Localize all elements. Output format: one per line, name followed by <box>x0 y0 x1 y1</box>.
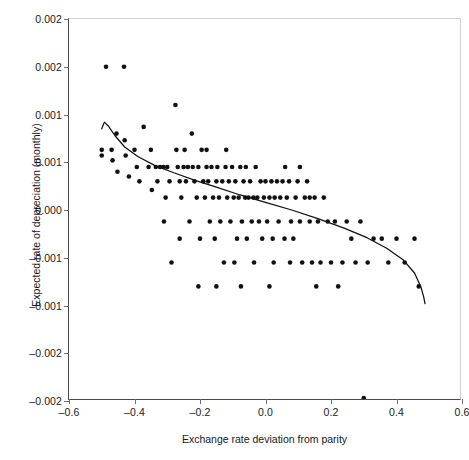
data-point <box>134 165 139 170</box>
data-point <box>223 165 228 170</box>
data-point <box>181 165 186 170</box>
data-point <box>257 219 262 224</box>
data-point <box>184 179 189 184</box>
data-point <box>275 179 280 184</box>
data-point <box>340 260 345 265</box>
data-point <box>194 195 199 200</box>
data-point <box>212 236 217 241</box>
data-point <box>236 195 241 200</box>
data-point <box>220 179 225 184</box>
data-point <box>146 165 151 170</box>
data-point <box>99 153 104 158</box>
data-point <box>258 179 263 184</box>
data-point <box>379 236 384 241</box>
y-tick-label: 0.002 <box>35 61 69 73</box>
data-point <box>231 195 236 200</box>
data-point <box>310 260 315 265</box>
data-point <box>127 174 132 179</box>
data-point <box>289 219 294 224</box>
data-point <box>394 236 399 241</box>
data-point <box>190 131 195 136</box>
data-point <box>269 179 274 184</box>
data-point <box>177 179 182 184</box>
data-point <box>122 64 127 69</box>
data-point <box>288 260 293 265</box>
data-point <box>253 165 258 170</box>
data-point <box>149 148 154 153</box>
data-point <box>204 165 209 170</box>
data-point <box>272 195 277 200</box>
data-point <box>238 165 243 170</box>
data-point <box>141 125 146 130</box>
data-point <box>208 219 213 224</box>
x-tick-label: 0.2 <box>324 406 339 418</box>
data-point <box>217 195 222 200</box>
data-point <box>278 195 283 200</box>
data-point <box>240 219 245 224</box>
data-point <box>186 165 191 170</box>
data-point <box>248 179 253 184</box>
data-point <box>255 195 260 200</box>
data-point <box>283 165 288 170</box>
x-tick-mark <box>135 399 136 404</box>
data-point <box>263 179 268 184</box>
data-point <box>167 179 172 184</box>
plot-frame: 0.0020.0020.0010.0010.000–0.001–0.001–0.… <box>68 18 461 400</box>
data-point <box>386 260 391 265</box>
data-point <box>260 236 265 241</box>
data-point <box>336 284 341 289</box>
data-point <box>214 284 219 289</box>
data-point <box>169 260 174 265</box>
data-point <box>114 131 119 136</box>
data-point <box>270 236 275 241</box>
data-point <box>251 195 256 200</box>
x-tick-label: –0.2 <box>190 406 211 418</box>
data-point <box>284 195 289 200</box>
data-point <box>416 284 421 289</box>
plot-area <box>69 19 460 399</box>
data-point <box>179 195 184 200</box>
data-point <box>201 179 206 184</box>
data-point <box>163 195 168 200</box>
data-point <box>349 236 354 241</box>
x-tick-mark <box>331 399 332 404</box>
data-point <box>245 236 250 241</box>
x-tick-mark <box>462 399 463 404</box>
x-tick-label: 0.6 <box>455 406 469 418</box>
data-point <box>150 188 155 193</box>
data-point <box>214 179 219 184</box>
data-point <box>244 165 249 170</box>
data-point <box>196 165 201 170</box>
data-point <box>153 165 158 170</box>
data-point <box>199 148 204 153</box>
x-tick-label: –0.6 <box>59 406 80 418</box>
data-point <box>177 236 182 241</box>
data-point <box>209 165 214 170</box>
data-point <box>246 195 251 200</box>
data-point <box>192 179 197 184</box>
data-point <box>215 165 220 170</box>
data-point <box>162 219 167 224</box>
data-point <box>233 179 238 184</box>
data-point <box>361 396 366 399</box>
data-point <box>187 219 192 224</box>
data-point <box>412 236 417 241</box>
figure-caption <box>26 451 456 460</box>
data-point <box>239 284 244 289</box>
data-point <box>232 260 237 265</box>
data-point <box>293 195 298 200</box>
data-point <box>155 179 160 184</box>
data-point <box>191 165 196 170</box>
data-point <box>182 148 187 153</box>
data-point <box>123 153 128 158</box>
data-point <box>267 195 272 200</box>
data-point <box>99 148 104 153</box>
data-point <box>218 219 223 224</box>
data-point <box>249 219 254 224</box>
data-point <box>228 219 233 224</box>
data-point <box>353 260 358 265</box>
data-point <box>265 219 270 224</box>
data-point <box>104 64 109 69</box>
data-point <box>262 195 267 200</box>
data-point <box>222 260 227 265</box>
